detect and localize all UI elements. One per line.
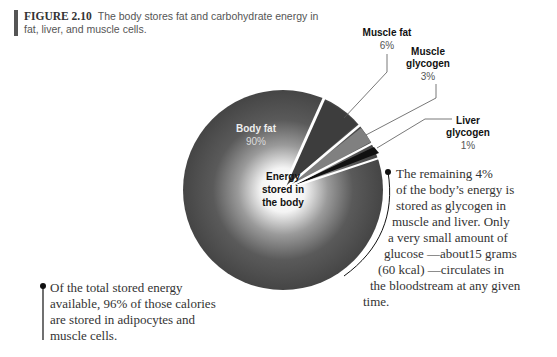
muscle-glycogen-pct: 3% <box>421 71 436 82</box>
muscle-fat-label: Muscle fat <box>363 27 413 38</box>
muscle-fat-leader <box>344 54 387 118</box>
muscle-glycogen-leader <box>366 84 436 135</box>
liver-glycogen-label-1: Liver <box>456 115 480 126</box>
center-label-line3: the body <box>262 197 304 208</box>
muscle-glycogen-label-2: glycogen <box>406 58 450 69</box>
body-fat-label: Body fat <box>236 123 277 134</box>
liver-glycogen-pct: 1% <box>461 140 476 151</box>
center-label-line2: stored in <box>262 184 304 195</box>
body-fat-pct: 90% <box>246 136 266 147</box>
muscle-fat-pct: 6% <box>380 40 395 51</box>
right-note: The remaining 4% of the body’s energy is… <box>396 166 557 310</box>
liver-glycogen-label-2: glycogen <box>446 127 490 138</box>
left-note: Of the total stored energy available, 96… <box>50 280 290 344</box>
center-label-line1: Energy <box>266 171 300 182</box>
muscle-glycogen-label-1: Muscle <box>411 46 445 57</box>
